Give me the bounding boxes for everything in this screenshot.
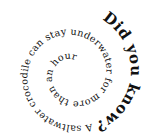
- fact-text: A saltwater crocodile can stay underwate…: [0, 0, 115, 135]
- spiral-text-graphic: Did you know? A saltwater crocodile can …: [0, 0, 146, 137]
- heading-text: Did you know?: [93, 8, 145, 136]
- spiral-text: Did you know? A saltwater crocodile can …: [0, 0, 145, 135]
